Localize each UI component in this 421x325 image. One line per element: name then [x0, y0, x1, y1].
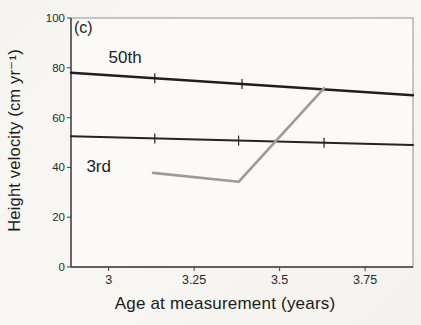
y-tick-label: 60 — [52, 112, 65, 124]
y-tick-label: 20 — [52, 211, 65, 223]
annotation-label-3rd: 3rd — [86, 157, 111, 176]
x-axis-title: Age at measurement (years) — [30, 294, 420, 314]
annotation-label-50th: 50th — [109, 48, 142, 67]
chart-canvas: 02040608010033.253.53.7550th3rd — [0, 0, 421, 325]
y-tick-label: 100 — [46, 12, 65, 24]
y-tick-label: 0 — [59, 261, 65, 273]
x-tick-label: 3.5 — [271, 273, 288, 287]
growth-velocity-figure: 02040608010033.253.53.7550th3rd (c) Age … — [0, 0, 421, 325]
y-tick-label: 80 — [52, 62, 65, 74]
y-tick-label: 40 — [52, 161, 65, 173]
y-axis-title: Height velocity (cm yr⁻¹) — [5, 10, 24, 272]
x-tick-label: 3.75 — [353, 273, 377, 287]
panel-label: (c) — [74, 19, 93, 37]
x-tick-label: 3.25 — [182, 273, 206, 287]
x-tick-label: 3 — [105, 273, 112, 287]
